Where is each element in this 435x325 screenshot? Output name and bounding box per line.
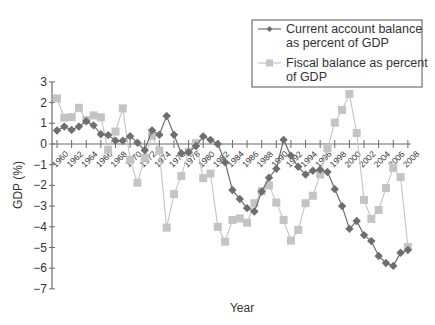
data-point-square (331, 119, 339, 127)
data-point-square (353, 129, 361, 137)
y-tick-label: −7 (33, 282, 47, 296)
data-point-diamond (155, 130, 163, 138)
data-point-square (323, 144, 331, 152)
legend-label-line1: Fiscal balance as percent (286, 56, 428, 70)
data-point-diamond (396, 248, 404, 256)
data-point-square (221, 238, 229, 246)
data-point-square (389, 164, 397, 172)
y-tick-label: 2 (40, 96, 47, 110)
series-line (57, 94, 408, 247)
data-point-square (68, 113, 76, 121)
data-point-diamond (389, 262, 397, 270)
y-tick-label: −4 (33, 220, 47, 234)
data-point-diamond (309, 167, 317, 175)
y-tick-label: −5 (33, 241, 47, 255)
data-point-diamond (214, 140, 222, 148)
data-point-square (375, 206, 383, 214)
legend-label-line2: of GDP (286, 70, 327, 84)
data-point-square (199, 174, 207, 182)
legend-label-line1: Current account balance (286, 22, 422, 36)
plot-area (53, 90, 412, 270)
data-point-square (228, 216, 236, 224)
data-point-diamond (279, 136, 287, 144)
data-point-square (207, 170, 215, 178)
data-point-square (309, 192, 317, 200)
data-point-square (60, 114, 68, 122)
data-point-square (141, 154, 149, 162)
data-point-square (360, 196, 368, 204)
data-point-square (367, 215, 375, 223)
data-point-square (345, 90, 353, 98)
y-tick-label: 1 (40, 116, 47, 130)
y-axis-title: GDP (%) (11, 161, 25, 209)
data-point-square (280, 216, 288, 224)
data-point-square (126, 156, 134, 164)
square-marker-icon (266, 60, 273, 67)
data-point-square (119, 104, 127, 112)
data-point-diamond (67, 126, 75, 134)
y-tick-label: 3 (40, 75, 47, 89)
data-point-square (104, 146, 112, 154)
data-point-square (302, 199, 310, 207)
data-point-diamond (250, 207, 258, 215)
data-point-diamond (162, 112, 170, 120)
data-point-square (287, 237, 295, 245)
y-axis: 3210−1−2−3−4−5−6−7 (33, 75, 55, 296)
data-point-diamond (60, 122, 68, 130)
y-tick-label: −3 (33, 199, 47, 213)
data-point-square (214, 223, 222, 231)
data-point-square (75, 104, 83, 112)
data-point-square (177, 172, 185, 180)
legend-label-line2: as percent of GDP (286, 36, 389, 50)
data-point-square (155, 147, 163, 155)
data-point-square (338, 106, 346, 114)
data-point-diamond (323, 168, 331, 176)
x-tick-label: 2008 (401, 149, 422, 170)
legend: Current account balance as percent of GD… (252, 20, 428, 87)
y-tick-label: −2 (33, 178, 47, 192)
data-point-square (243, 219, 251, 227)
data-point-diamond (53, 126, 61, 134)
data-point-square (236, 215, 244, 223)
data-point-square (170, 190, 178, 198)
data-point-square (97, 113, 105, 121)
y-tick-label: −1 (33, 158, 47, 172)
x-axis: 1960196219641966196819701972197419761978… (50, 140, 422, 169)
data-point-square (272, 199, 280, 207)
data-point-square (90, 111, 98, 119)
data-point-square (53, 94, 61, 102)
data-point-diamond (170, 130, 178, 138)
data-point-square (294, 226, 302, 234)
y-tick-label: −6 (33, 261, 47, 275)
data-point-diamond (206, 136, 214, 144)
data-point-square (163, 224, 171, 232)
data-point-square (382, 184, 390, 192)
series-fiscal-balance (53, 90, 412, 251)
data-point-diamond (331, 185, 339, 193)
data-point-square (397, 173, 405, 181)
data-point-diamond (338, 202, 346, 210)
data-point-square (133, 179, 141, 187)
y-tick-label: 0 (40, 137, 47, 151)
data-point-square (111, 128, 119, 136)
x-axis-title: Year (230, 301, 254, 315)
chart: 3210−1−2−3−4−5−6−7 196019621964196619681… (0, 0, 435, 325)
